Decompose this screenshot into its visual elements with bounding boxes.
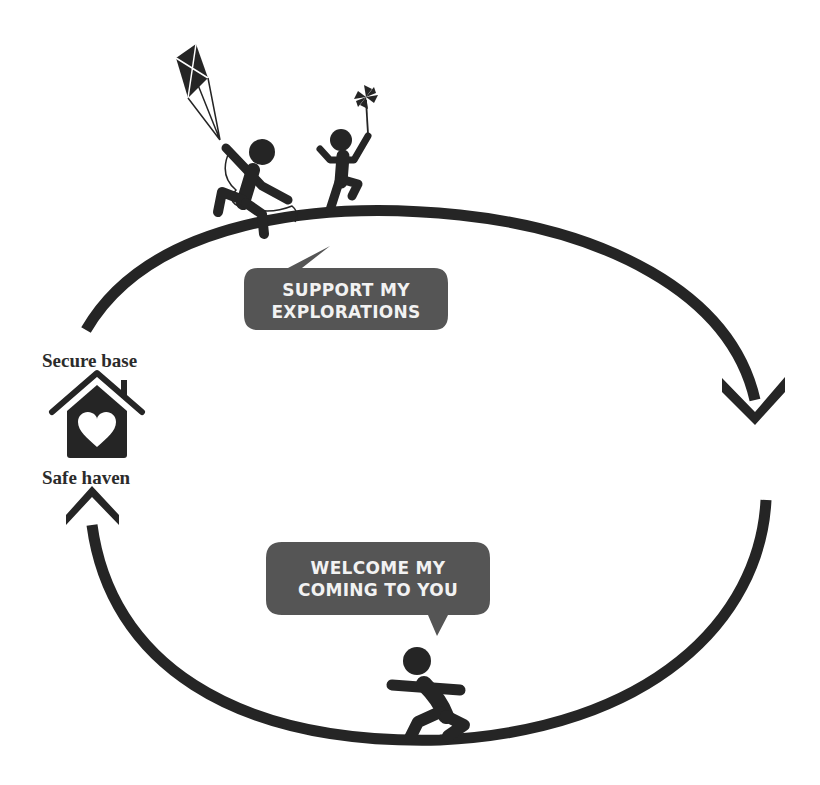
welcome-coming-bubble: WELCOME MY COMING TO YOU xyxy=(266,542,490,636)
bubble-line-2: EXPLORATIONS xyxy=(271,302,420,322)
support-explorations-bubble: SUPPORT MY EXPLORATIONS xyxy=(244,246,448,330)
safe-haven-label: Safe haven xyxy=(42,467,131,488)
pinwheel-child-icon xyxy=(320,85,378,210)
house-heart-icon xyxy=(52,373,142,458)
circle-of-security-diagram: Secure base Safe haven SUPPORT MY EXPLOR… xyxy=(0,0,820,785)
bubble-line-1: SUPPORT MY xyxy=(282,280,410,300)
arrowhead-up-icon xyxy=(66,486,119,525)
bubble-line-2: COMING TO YOU xyxy=(298,580,458,600)
bubble-line-1: WELCOME MY xyxy=(311,558,446,578)
secure-base-label: Secure base xyxy=(42,350,137,371)
kite-child-icon xyxy=(176,44,297,234)
home-group: Secure base Safe haven xyxy=(42,350,142,488)
running-child-icon xyxy=(392,647,464,738)
